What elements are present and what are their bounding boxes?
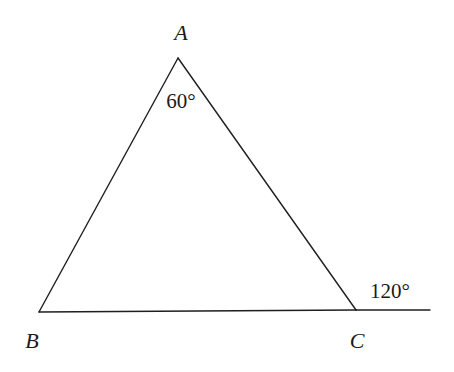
edge-ac [178,58,356,310]
vertex-label-b: B [25,328,38,353]
triangle-diagram: A B C 60° 120° [0,0,454,372]
vertex-label-c: C [350,328,365,353]
exterior-angle-label-c: 120° [370,279,410,303]
vertex-label-a: A [172,20,188,45]
edge-ab [39,58,178,312]
edge-bc [39,310,356,312]
triangle-edges [39,58,430,312]
angle-label-a: 60° [166,89,195,113]
